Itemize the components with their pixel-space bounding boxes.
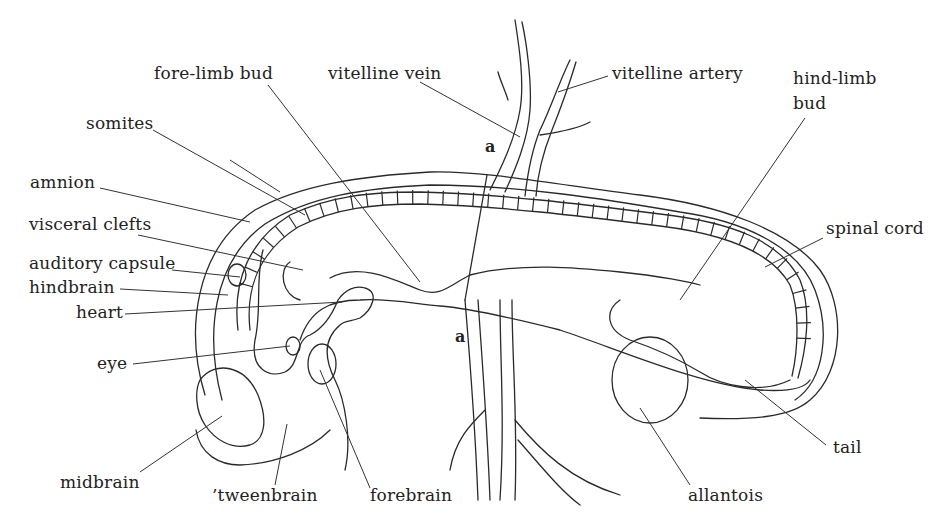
leader-somites-1 <box>153 130 305 215</box>
somite-tick <box>245 267 258 273</box>
amnion-inner <box>214 185 823 400</box>
somite-tick <box>335 198 338 212</box>
label-midbrain: midbrain <box>60 472 140 492</box>
somite-tick <box>739 232 744 245</box>
somite-tick <box>711 222 715 236</box>
leader-vitelline-artery <box>558 76 608 92</box>
somite-tick <box>458 192 459 206</box>
label-amnion: amnion <box>30 172 95 192</box>
leader-eye <box>133 346 290 364</box>
label-hind-limb-bud-line1: hind-limb <box>793 68 877 88</box>
section-mark-bottom: a <box>455 327 465 346</box>
somite-tick <box>766 247 774 258</box>
somite-tick <box>305 209 310 222</box>
label-vitelline-vein: vitelline vein <box>328 63 442 83</box>
vitelline-artery-vessel <box>525 60 570 196</box>
label-fore-limb-bud: fore-limb bud <box>154 63 273 83</box>
label-forebrain: forebrain <box>370 485 452 505</box>
label-visceral-clefts: visceral clefts <box>29 214 151 234</box>
leader-tweenbrain <box>275 424 287 485</box>
midbrain-outline <box>197 368 264 446</box>
leader-hind-limb-bud <box>680 118 805 300</box>
somite-tick <box>320 203 324 216</box>
label-auditory-capsule: auditory capsule <box>29 253 176 273</box>
somite-tick <box>351 195 353 209</box>
somite-tick <box>796 306 810 308</box>
vitelline-branch-2 <box>498 72 508 100</box>
leader-hindbrain <box>120 289 228 295</box>
leader-fore-limb-bud <box>268 85 420 282</box>
label-tail: tail <box>833 437 862 457</box>
allantois-shape <box>612 337 688 423</box>
hind-limb-region <box>610 300 790 388</box>
label-hind-limb-bud-line2: bud <box>793 93 826 113</box>
somite-tick <box>443 191 444 205</box>
somite-tick <box>397 190 398 204</box>
vitelline-branch <box>540 122 590 135</box>
leader-heart <box>125 302 342 314</box>
spinal-cord-inner <box>249 204 797 376</box>
somite-tick <box>753 239 760 251</box>
auditory-capsule-shape <box>228 264 246 286</box>
umbilical-vessel-3 <box>500 300 502 500</box>
label-allantois: allantois <box>688 485 763 505</box>
gut-line-lower <box>300 300 810 391</box>
label-hindbrain: hindbrain <box>29 277 115 297</box>
somite-tick <box>289 216 297 228</box>
somite-tick <box>263 238 273 247</box>
label-eye: eye <box>97 353 127 373</box>
vitelline-vein-vessel-2 <box>505 22 530 192</box>
umbilical-vessel-2 <box>478 300 490 500</box>
lower-branch-left <box>450 410 485 470</box>
section-mark-top: a <box>485 137 495 156</box>
label-heart: heart <box>76 302 123 322</box>
lower-branch-right <box>515 420 620 495</box>
gut-line-upper <box>330 267 700 292</box>
umbilical-vessel-4 <box>512 300 516 500</box>
label-somites: somites <box>86 113 154 133</box>
leader-midbrain <box>140 416 222 472</box>
somite-tick <box>275 226 284 237</box>
somite-tick <box>787 272 799 280</box>
head-outline <box>254 250 373 470</box>
somite-tick <box>797 338 811 339</box>
umbilical-vessel <box>465 300 478 500</box>
label-vitelline-artery: vitelline artery <box>612 63 743 83</box>
amnion-outline <box>196 172 838 419</box>
label-spinal-cord: spinal cord <box>826 218 924 238</box>
forebrain-shape <box>308 344 336 384</box>
tweenbrain-outline <box>196 430 330 465</box>
label-tweenbrain: ’tweenbrain <box>212 485 318 505</box>
